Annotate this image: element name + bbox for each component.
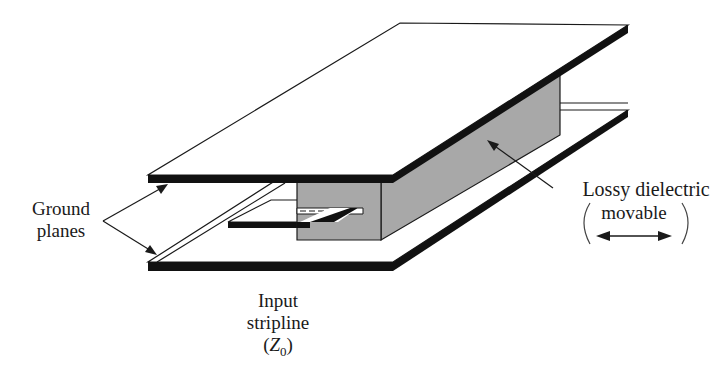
movable-label: movable bbox=[586, 202, 682, 224]
left-right-arrow-icon bbox=[596, 231, 672, 241]
close-paren bbox=[682, 203, 688, 244]
stripline-load-diagram: Ground planes Input stripline (Z0) Lossy… bbox=[0, 0, 723, 370]
lossy-dielectric-label: Lossy dielectric bbox=[566, 178, 723, 200]
input-stripline-label-line1: Input bbox=[228, 290, 328, 312]
impedance-close-paren: ) bbox=[287, 334, 293, 355]
impedance-label: (Z0) bbox=[228, 334, 328, 358]
input-stripline-label: Input stripline (Z0) bbox=[228, 290, 328, 358]
ground-planes-label: Ground planes bbox=[20, 198, 102, 242]
input-stripline-label-line2: stripline bbox=[228, 312, 328, 334]
ground-planes-label-line1: Ground bbox=[20, 198, 102, 220]
impedance-symbol: Z bbox=[269, 334, 280, 355]
impedance-subscript: 0 bbox=[280, 344, 287, 359]
ground-planes-pointer bbox=[103, 184, 168, 255]
ground-planes-label-line2: planes bbox=[20, 220, 102, 242]
